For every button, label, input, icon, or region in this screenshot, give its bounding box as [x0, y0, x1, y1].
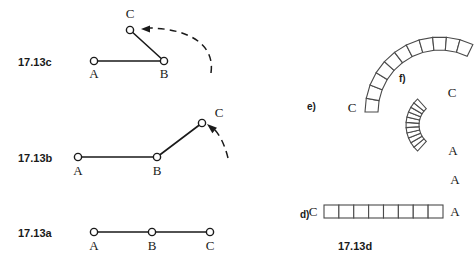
- panel-f-tight-arc: f) C A: [399, 73, 458, 158]
- panel-17-13a: 17.13a A B C: [18, 227, 214, 253]
- panel-d-end-label-c: C: [309, 204, 318, 219]
- diagram-svg: 17.13c A B C 17.13b: [0, 0, 476, 269]
- panel-c-links: [94, 30, 164, 61]
- bar-segment: [398, 205, 413, 218]
- joint-b: [160, 57, 167, 64]
- joint-a: [74, 153, 81, 160]
- panel-e-end-label-c: C: [348, 100, 357, 115]
- panel-f-end-label-c: C: [448, 85, 457, 100]
- panel-d-end-label-a: A: [450, 204, 460, 219]
- panel-b-links: [78, 123, 202, 157]
- joint-a: [90, 57, 97, 64]
- panel-e-gentle-arc: e) C A: [307, 37, 473, 187]
- joint-c: [126, 26, 133, 33]
- point-label-c: C: [206, 238, 215, 253]
- point-label-b: B: [148, 238, 157, 253]
- panel-c-caption: 17.13c: [18, 56, 52, 68]
- point-label-b: B: [153, 163, 162, 178]
- panel-d-straight-bar: d) C A 17.13d: [300, 204, 460, 252]
- point-label-c: C: [215, 105, 224, 120]
- bar-segment: [413, 205, 428, 218]
- panel-b-motion-arc: [212, 127, 228, 158]
- point-label-a: A: [73, 163, 83, 178]
- bar-segment: [324, 205, 339, 218]
- point-label-a: A: [89, 238, 99, 253]
- panel-f-sub-caption: f): [399, 73, 406, 84]
- panel-c-joints: [90, 26, 167, 64]
- joint-a: [90, 228, 97, 235]
- panel-e-end-label-a: A: [450, 172, 460, 187]
- panel-f-end-label-a: A: [448, 143, 458, 158]
- bar-segment: [354, 205, 369, 218]
- panel-e-sub-caption: e): [307, 101, 316, 112]
- panel-d-segment-chain: [324, 205, 443, 218]
- figure-canvas: 17.13c A B C 17.13b: [0, 0, 476, 269]
- panel-d-caption: 17.13d: [338, 240, 372, 252]
- panel-c-arrowhead: [141, 25, 150, 32]
- panel-b-joints: [74, 119, 205, 160]
- link-b-c: [157, 123, 202, 157]
- panel-17-13c: 17.13c A B C: [18, 6, 211, 81]
- arc-segment: [457, 40, 473, 57]
- point-label-c: C: [126, 6, 135, 21]
- joint-c: [198, 119, 205, 126]
- panel-b-caption: 17.13b: [18, 152, 53, 164]
- panel-17-13b: 17.13b A B C: [18, 105, 228, 178]
- link-b-c: [130, 30, 164, 61]
- bar-segment: [369, 205, 384, 218]
- panel-b-point-labels: A B C: [73, 105, 223, 178]
- arc-segment: [433, 37, 447, 50]
- bar-segment: [339, 205, 354, 218]
- joint-b: [148, 228, 155, 235]
- joint-b: [153, 153, 160, 160]
- point-label-a: A: [89, 66, 99, 81]
- panel-f-segment-chain: [406, 99, 426, 151]
- point-label-b: B: [160, 66, 169, 81]
- bar-segment: [384, 205, 399, 218]
- panel-c-point-labels: A B C: [89, 6, 168, 81]
- panel-b-arrowhead: [207, 124, 217, 133]
- joint-c: [206, 228, 213, 235]
- bar-segment: [428, 205, 443, 218]
- panel-a-point-labels: A B C: [89, 238, 214, 253]
- panel-a-caption: 17.13a: [18, 227, 53, 239]
